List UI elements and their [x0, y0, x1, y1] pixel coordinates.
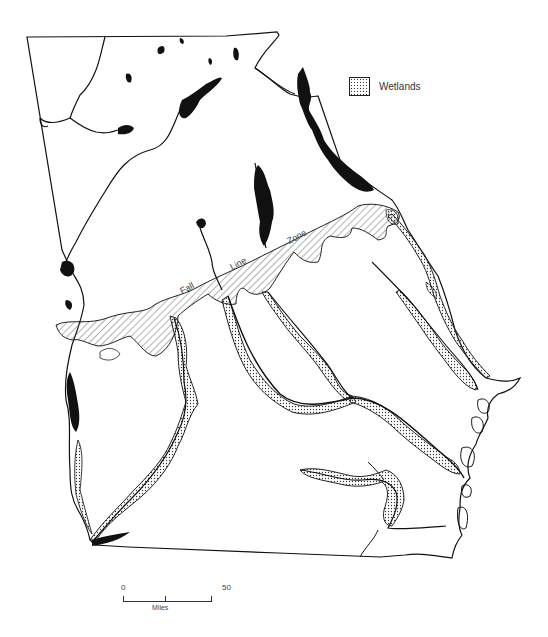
fall-line-zone — [56, 204, 399, 356]
legend-label-wetlands: Wetlands — [379, 81, 421, 92]
scale-unit-label: Miles — [152, 604, 168, 611]
scale-bar: 0 50 Miles — [121, 583, 241, 623]
scale-mid-tick — [165, 596, 166, 601]
wetlands-pattern-swatch — [349, 77, 370, 96]
scale-start-label: 0 — [121, 583, 125, 592]
map-legend: Wetlands — [349, 77, 421, 96]
georgia-map — [0, 0, 548, 637]
scale-bar-line — [123, 596, 212, 602]
northern-rivers — [40, 37, 295, 290]
fall-line-enclave — [100, 348, 120, 360]
scale-end-label: 50 — [222, 583, 231, 592]
barrier-islands — [457, 399, 489, 529]
state-boundary — [27, 32, 520, 558]
